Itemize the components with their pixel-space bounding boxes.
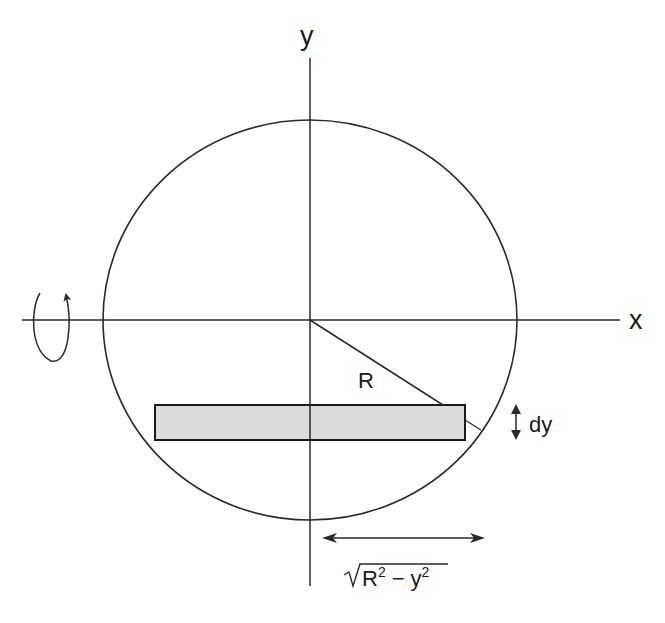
half-width-double-arrow-icon (322, 533, 485, 543)
rotation-arrow-icon (34, 293, 70, 361)
formula-R: R (362, 566, 378, 591)
dy-label: dy (529, 412, 552, 437)
formula-exp-2: 2 (422, 564, 430, 580)
formula-minus: − (392, 566, 405, 591)
radius-label: R (358, 368, 374, 393)
radius-line (310, 320, 443, 405)
x-axis-label: x (629, 305, 643, 335)
disk-diagram: y x R dy R2−y2 (0, 0, 665, 623)
y-axis-label: y (300, 21, 314, 51)
svg-text:R2−y2: R2−y2 (362, 564, 430, 591)
half-width-formula: R2−y2 (344, 564, 448, 591)
strip-corner-connector (465, 420, 481, 430)
dy-double-arrow-icon (511, 404, 521, 440)
formula-exp-1: 2 (378, 564, 386, 580)
formula-y: y (411, 566, 422, 591)
